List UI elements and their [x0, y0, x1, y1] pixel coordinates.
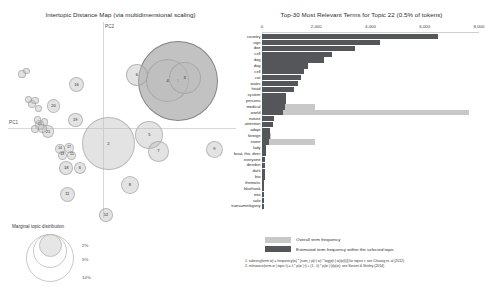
bar-row[interactable]: boat, the, deer: [245, 151, 479, 156]
bar-row[interactable]: everyone: [245, 157, 479, 162]
bar-row[interactable]: system: [245, 93, 479, 98]
bar-row[interactable]: dog: [245, 63, 479, 68]
bar-row[interactable]: nature: [245, 116, 479, 121]
bar-row[interactable]: dog: [245, 57, 479, 62]
bar-topic-frequency: [262, 192, 264, 197]
legend-row-topic: Estimated term frequency within the sele…: [265, 246, 480, 254]
term-label: into: [254, 192, 261, 197]
topic-bubble[interactable]: 19: [68, 113, 83, 128]
term-label: cell: [254, 51, 260, 56]
topic-bubble[interactable]: [31, 97, 39, 105]
x-axis-tick-label: 2,000: [311, 24, 322, 29]
term-label: nature: [249, 116, 261, 121]
term-label: stone: [250, 139, 260, 144]
bar-topic-frequency: [262, 122, 273, 127]
term-label: world: [251, 110, 261, 115]
topic-bubble[interactable]: 16: [69, 77, 84, 92]
term-label: dog: [254, 57, 261, 62]
bar-row[interactable]: stone: [245, 139, 479, 144]
intertopic-scatter-plot[interactable]: PC2 PC1 14362579816201921186111214171315…: [8, 22, 236, 218]
bar-row[interactable]: cell: [245, 52, 479, 57]
bar-row[interactable]: world: [245, 110, 479, 115]
term-label: system: [248, 92, 261, 97]
topic-bubble-number: 17: [65, 147, 73, 150]
topic-bubble[interactable]: 3: [169, 62, 201, 94]
topic-bubble-number: 7: [149, 149, 168, 153]
bar-row[interactable]: lady: [245, 145, 479, 150]
bar-topic-frequency: [262, 163, 265, 168]
bar-topic-frequency: [262, 198, 264, 203]
bar-row[interactable]: attention: [245, 122, 479, 127]
bar-topic-frequency: [262, 98, 286, 103]
topic-bubble-number: 18: [60, 166, 72, 170]
bar-row[interactable]: dark: [245, 169, 479, 174]
bar-topic-frequency: [262, 63, 308, 68]
topic-bubble-number: 13: [59, 154, 66, 157]
intertopic-distance-panel: Intertopic Distance Map (via multidimens…: [0, 0, 241, 293]
topic-bubble[interactable]: 11: [60, 187, 76, 203]
bar-overall-frequency: [262, 139, 315, 144]
bar-row[interactable]: foreign: [245, 133, 479, 138]
topic-bubble[interactable]: [35, 105, 42, 112]
top-terms-title: Top-30 Most Relevant Terms for Topic 22 …: [241, 11, 482, 18]
topic-bubble[interactable]: [31, 125, 39, 133]
bar-row[interactable]: cat: [245, 75, 479, 80]
topic-bubble[interactable]: 18: [59, 161, 73, 175]
topic-bubble[interactable]: 13: [58, 151, 67, 160]
term-label: lady: [253, 145, 261, 150]
topic-bubble-number: 9: [207, 147, 222, 151]
bar-topic-frequency: [262, 93, 286, 98]
bar-topic-frequency: [262, 133, 270, 138]
bar-topic-frequency: [262, 40, 380, 45]
term-label: cat: [255, 75, 260, 80]
bar-row[interactable]: bio: [245, 174, 479, 179]
legend-label-overall: Overall term frequency: [296, 236, 340, 243]
bar-row[interactable]: sign: [245, 40, 479, 45]
bar-topic-frequency: [262, 69, 304, 74]
bar-row[interactable]: thematic: [245, 180, 479, 185]
bar-row[interactable]: sale: [245, 198, 479, 203]
term-label: sale: [253, 198, 261, 203]
bar-row[interactable]: into: [245, 192, 479, 197]
topic-bubble-number: 5: [136, 133, 162, 137]
topic-bubble[interactable]: 12: [99, 208, 113, 222]
marginal-label-10: 10%: [82, 275, 91, 280]
marginal-legend-title: Marginal topic distribution: [12, 224, 64, 229]
topic-bubble[interactable]: [41, 118, 49, 126]
bar-row[interactable]: country: [245, 34, 479, 39]
topic-bubble[interactable]: 6: [74, 162, 86, 174]
bar-row[interactable]: adopt: [245, 128, 479, 133]
term-label: country: [247, 34, 260, 39]
topic-bubble-number: 6: [75, 166, 85, 170]
bar-row[interactable]: deerbin: [245, 163, 479, 168]
pc1-axis-label: PC1: [9, 120, 18, 125]
bar-row[interactable]: cell: [245, 69, 479, 74]
bar-row[interactable]: doe: [245, 46, 479, 51]
topic-bubble[interactable]: 7: [148, 141, 169, 162]
term-label: deerbin: [247, 162, 261, 167]
term-label: adopt: [250, 127, 260, 132]
bar-topic-frequency: [262, 157, 265, 162]
bar-row[interactable]: water: [245, 81, 479, 86]
bar-row[interactable]: transamerkgony: [245, 204, 479, 209]
topic-bubble[interactable]: 15: [67, 151, 76, 160]
bar-row[interactable]: medical: [245, 104, 479, 109]
term-label: boat, the, deer: [234, 151, 260, 156]
bar-row[interactable]: head: [245, 87, 479, 92]
topic-bubble[interactable]: [23, 68, 30, 75]
top-terms-bar-chart[interactable]: 02,0004,0006,0008,000 countrysigndoecell…: [245, 24, 479, 210]
bar-row[interactable]: bluehook: [245, 186, 479, 191]
topic-bubble[interactable]: 20: [47, 99, 61, 113]
term-label: head: [251, 86, 260, 91]
topic-bubble[interactable]: [34, 116, 41, 123]
marginal-circle-2: [39, 234, 62, 257]
bar-row[interactable]: persons: [245, 98, 479, 103]
topic-bubble[interactable]: 6: [126, 64, 148, 86]
bar-topic-frequency: [262, 110, 283, 115]
bar-chart-footnotes: 1. saliency(term w) = frequency(w) * [su…: [245, 259, 481, 269]
topic-bubble[interactable]: 8: [121, 176, 139, 194]
bar-topic-frequency: [262, 174, 265, 179]
topic-bubble[interactable]: 2: [82, 117, 134, 169]
topic-bubble[interactable]: 9: [206, 141, 223, 158]
term-label: medical: [246, 104, 260, 109]
